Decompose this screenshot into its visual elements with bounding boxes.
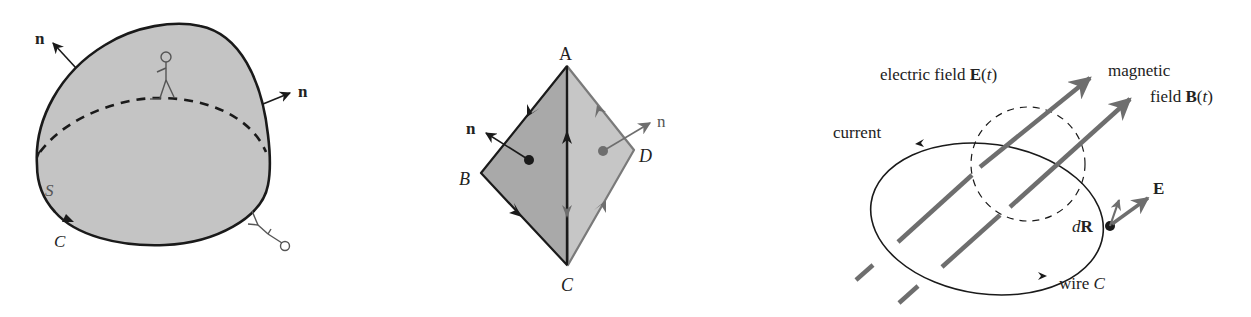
face-abc xyxy=(481,66,567,265)
label-e-vector: E xyxy=(1153,179,1164,198)
panel-faraday: electric field E(t) magnetic field B(t) … xyxy=(833,61,1213,310)
label-wire-c: wire C xyxy=(1059,274,1105,293)
label-vertex-d: D xyxy=(638,146,652,166)
panel-tetrahedron: A B C D n n xyxy=(459,44,666,295)
label-dr: dR xyxy=(1072,217,1094,236)
figure-canvas: n n S C xyxy=(0,0,1251,317)
panel-surface: n n S C xyxy=(35,24,308,251)
face-acd xyxy=(567,66,634,265)
electric-field-loop xyxy=(971,107,1085,221)
label-magnetic-field: field B(t) xyxy=(1150,87,1213,106)
label-n-top-left: n xyxy=(35,29,45,48)
label-current: current xyxy=(833,123,881,142)
normal-arrow-top-left xyxy=(53,43,76,68)
label-n-right: n xyxy=(298,82,308,101)
label-magnetic-line1: magnetic xyxy=(1108,61,1171,80)
observer-bottom-icon xyxy=(248,211,290,251)
label-electric-field: electric field E(t) xyxy=(880,65,997,84)
label-c: C xyxy=(54,232,66,251)
normal-arrow-right xyxy=(263,93,290,104)
label-n-right-face: n xyxy=(657,112,666,131)
label-n-left: n xyxy=(466,119,476,138)
label-vertex-c: C xyxy=(561,275,574,295)
surface-s xyxy=(37,24,270,245)
current-arrow-top-icon xyxy=(915,139,924,147)
label-s: S xyxy=(45,181,54,200)
label-vertex-a: A xyxy=(559,44,572,64)
current-arrow-bottom-icon xyxy=(1038,272,1047,280)
label-vertex-b: B xyxy=(459,169,470,189)
